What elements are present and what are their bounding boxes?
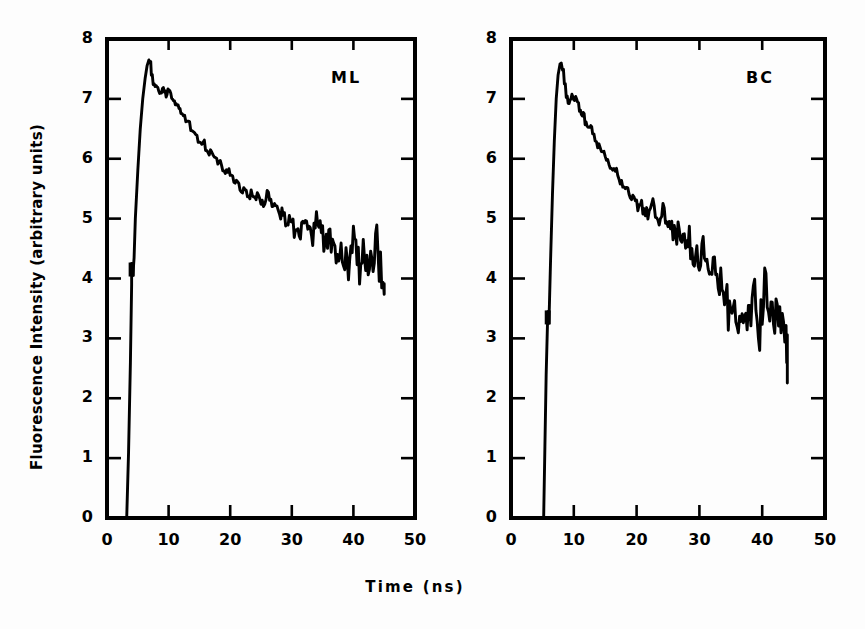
y-tick-label: 4 — [467, 268, 497, 287]
panel-label-ml: ML — [331, 68, 361, 87]
decay-curve-ml — [125, 60, 385, 518]
y-tick-label: 5 — [467, 208, 497, 227]
y-tick-label: 4 — [63, 268, 93, 287]
rise-edge-artifact — [129, 263, 135, 277]
rise-edge-artifact — [545, 310, 551, 324]
y-tick-label: 7 — [63, 88, 93, 107]
y-tick-label: 1 — [63, 447, 93, 466]
y-tick-label: 3 — [467, 327, 497, 346]
x-tick-label: 20 — [210, 530, 250, 549]
figure-root: Fluorescence Intensity (arbitrary units)… — [0, 0, 865, 629]
decay-curve-bc — [541, 63, 787, 518]
x-tick-label: 50 — [395, 530, 435, 549]
y-tick-label: 8 — [467, 28, 497, 47]
x-tick-label: 30 — [679, 530, 719, 549]
y-tick-label: 2 — [467, 387, 497, 406]
y-tick-label: 2 — [63, 387, 93, 406]
y-tick-label: 7 — [467, 88, 497, 107]
x-tick-label: 10 — [554, 530, 594, 549]
x-axis-title: Time (ns) — [285, 578, 545, 596]
y-tick-label: 0 — [63, 507, 93, 526]
y-tick-label: 8 — [63, 28, 93, 47]
x-tick-label: 0 — [87, 530, 127, 549]
y-tick-label: 0 — [467, 507, 497, 526]
panel-bc — [511, 39, 825, 518]
plot-frame — [511, 39, 825, 518]
y-axis-title: Fluorescence Intensity (arbitrary units) — [28, 77, 46, 517]
x-tick-label: 40 — [333, 530, 373, 549]
y-tick-label: 1 — [467, 447, 497, 466]
plot-frame — [107, 39, 415, 518]
x-tick-label: 30 — [272, 530, 312, 549]
x-tick-label: 20 — [617, 530, 657, 549]
y-tick-label: 6 — [63, 148, 93, 167]
x-tick-label: 50 — [805, 530, 845, 549]
y-tick-label: 6 — [467, 148, 497, 167]
x-tick-label: 0 — [491, 530, 531, 549]
y-tick-label: 3 — [63, 327, 93, 346]
panel-label-bc: BC — [746, 68, 774, 87]
x-tick-label: 40 — [742, 530, 782, 549]
x-tick-label: 10 — [149, 530, 189, 549]
y-tick-label: 5 — [63, 208, 93, 227]
panel-ml — [107, 39, 415, 518]
